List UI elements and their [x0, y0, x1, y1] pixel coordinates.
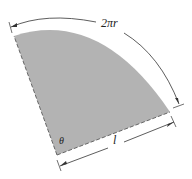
length-arrowhead-right — [167, 122, 174, 127]
length-arrowhead-left — [60, 161, 67, 166]
diagram-canvas — [0, 0, 192, 179]
arc-length-label: 2πr — [101, 17, 118, 29]
angle-label: θ — [59, 136, 64, 146]
arc-extension-tick-left — [9, 22, 12, 33]
slant-length-label: l — [113, 134, 116, 146]
arc-extension-tick-right — [173, 104, 184, 108]
length-extension-tick-right — [171, 116, 176, 127]
arc-dimension-line — [11, 18, 96, 27]
cone-sector-diagram: 2πr l θ — [0, 0, 192, 179]
sector-shape — [14, 30, 170, 155]
